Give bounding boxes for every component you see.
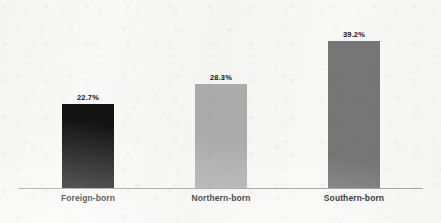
- plot-area: 22.7% 28.3% 39.2%: [18, 10, 423, 188]
- bar-group-northern-born: 28.3%: [195, 10, 247, 188]
- x-axis-baseline: [18, 188, 423, 189]
- bar-value-label-southern-born: 39.2%: [312, 30, 396, 39]
- bar-southern-born: [328, 41, 380, 188]
- bar-northern-born: [195, 84, 247, 188]
- x-axis-tick-labels: Foreign-born Northern-born Southern-born: [18, 192, 423, 208]
- bar-foreign-born: [62, 104, 114, 188]
- category-label-northern-born: Northern-born: [156, 192, 286, 204]
- bar-value-label-foreign-born: 22.7%: [46, 93, 130, 102]
- bar-value-label-northern-born: 28.3%: [179, 73, 263, 82]
- bar-group-southern-born: 39.2%: [328, 10, 380, 188]
- bar-chart-figure: 22.7% 28.3% 39.2% Foreign-born Northern-…: [0, 0, 441, 223]
- category-label-southern-born: Southern-born: [289, 192, 419, 204]
- bar-group-foreign-born: 22.7%: [62, 10, 114, 188]
- category-label-foreign-born: Foreign-born: [23, 192, 153, 204]
